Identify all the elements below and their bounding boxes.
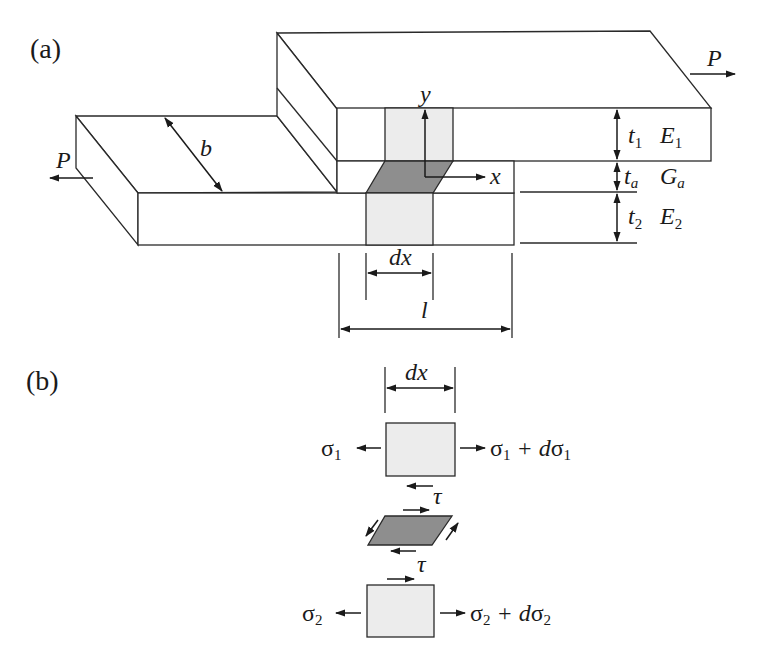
lower-adherend-front-face	[138, 193, 514, 245]
sigma2-label: σ2	[302, 600, 322, 628]
width-label: b	[200, 135, 212, 161]
element-adherend1	[385, 108, 453, 161]
adherend1-free-body	[386, 423, 455, 476]
load-label-right: P	[706, 45, 722, 71]
sigma1-plus-dsigma1-label: σ1 + dσ1	[490, 435, 571, 463]
element-adherend2	[366, 193, 433, 245]
t2-label: t2	[628, 203, 642, 232]
x-axis-label: x	[489, 163, 501, 189]
b-dx-label: dx	[405, 359, 428, 385]
sigma2-plus-dsigma2-label: σ2 + dσ2	[470, 600, 551, 628]
panel-a-label: (a)	[30, 33, 61, 64]
Ga-label: Ga	[660, 163, 685, 191]
y-axis-label: y	[418, 81, 431, 107]
sigma1-label: σ1	[321, 435, 341, 463]
panel-b-label: (b)	[26, 365, 59, 396]
single-lap-joint-diagram: (a) y x P P b t1 E1	[0, 0, 778, 664]
load-label-left: P	[55, 147, 71, 173]
upper-adherend-top-face	[277, 31, 711, 109]
dx-label: dx	[389, 244, 412, 270]
ta-label: ta	[624, 163, 638, 191]
overlap-length-label: l	[421, 297, 428, 323]
adherend2-free-body	[367, 585, 434, 637]
shear-arrow-adhesive-right	[446, 523, 458, 540]
adhesive-free-body	[368, 516, 452, 545]
E2-label: E2	[659, 203, 682, 232]
tau-label-top: τ	[433, 483, 443, 509]
tau-label-bottom: τ	[417, 551, 427, 577]
